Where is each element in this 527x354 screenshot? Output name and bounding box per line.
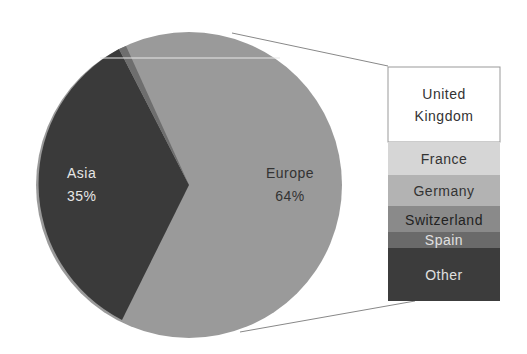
asia-pct: 35% — [67, 188, 97, 204]
asia-label: Asia — [67, 165, 96, 181]
spain-label: Spain — [425, 232, 463, 248]
pie — [36, 32, 342, 338]
germany-label: Germany — [413, 183, 474, 199]
france-label: France — [421, 151, 468, 167]
uk-label-line2: Kingdom — [415, 108, 474, 124]
europe-pct: 64% — [275, 188, 305, 204]
uk-label-line1: United — [422, 86, 465, 102]
other-label: Other — [425, 267, 463, 283]
switzerland-label: Switzerland — [405, 212, 483, 228]
europe-label: Europe — [266, 165, 314, 181]
pie-of-bar-chart: Asia 35% Europe 64% United Kingdom Franc… — [0, 0, 527, 354]
bar-segment-uk — [388, 67, 500, 142]
